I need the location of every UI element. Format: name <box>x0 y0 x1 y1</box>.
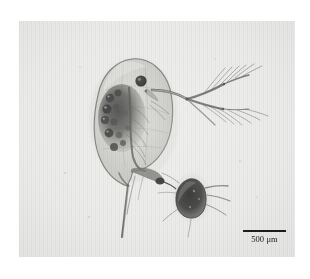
scale-bar-rule <box>243 230 286 232</box>
compound-eye <box>135 75 146 86</box>
micrograph-figure: 500 μm <box>0 0 310 279</box>
scale-bar-label: 500 μm <box>243 234 286 244</box>
photo-plate <box>19 21 295 257</box>
scale-bar: 500 μm <box>243 230 286 244</box>
small-zooplankter <box>158 173 230 237</box>
organism-illustration <box>19 21 295 257</box>
